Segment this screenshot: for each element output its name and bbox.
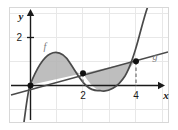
y-axis-label: y [17, 10, 24, 22]
grid-lines [4, 8, 169, 122]
curve-label-g: g [153, 51, 158, 62]
x-axis-label: x [162, 89, 169, 101]
intersection-point-origin [28, 83, 34, 89]
intersection-point-x2 [80, 70, 86, 76]
intersection-point-x4 [133, 58, 139, 64]
math-graph-figure: y x 2 2 4 f g [0, 0, 178, 130]
graph-canvas: y x 2 2 4 f g [0, 0, 178, 130]
curve-label-f: f [44, 41, 48, 52]
x-tick-label-2: 2 [80, 90, 86, 101]
x-tick-label-4: 4 [133, 90, 139, 101]
y-tick-label-2: 2 [16, 32, 22, 43]
y-axis-arrow [27, 9, 34, 16]
